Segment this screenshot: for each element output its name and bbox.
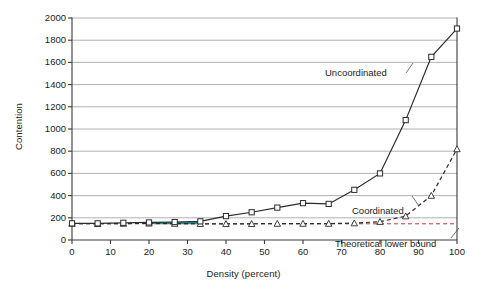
y-tick-label: 800 [26, 145, 66, 156]
x-tick-label: 20 [129, 246, 169, 257]
data-point-marker [326, 201, 331, 206]
data-point-marker [146, 220, 151, 225]
x-axis-label: Density (percent) [0, 268, 487, 279]
x-tick-label: 30 [168, 246, 208, 257]
chart-figure: Contention Density (percent) 02004006008… [0, 0, 487, 294]
annotation-uncoordinated: Uncoordinated [325, 67, 387, 78]
y-tick-label: 400 [26, 190, 66, 201]
data-point-marker [69, 221, 74, 226]
x-tick-label: 10 [91, 246, 131, 257]
x-tick-label: 50 [245, 246, 285, 257]
y-tick-label: 2000 [26, 12, 66, 23]
y-tick-label: 1400 [26, 79, 66, 90]
x-tick-label: 100 [437, 246, 477, 257]
data-point-marker [249, 210, 254, 215]
data-point-marker [454, 146, 460, 152]
x-tick-label: 0 [52, 246, 92, 257]
annotation-leader-lines [406, 63, 459, 238]
data-point-marker [377, 171, 382, 176]
annotation-theoretical-lower-bound: Theoretical lower bound [335, 238, 436, 249]
y-tick-label: 1000 [26, 123, 66, 134]
data-point-marker [95, 221, 100, 226]
data-point-marker [300, 201, 305, 206]
data-point-marker [198, 219, 203, 224]
data-point-marker [275, 205, 280, 210]
y-tick-label: 0 [26, 234, 66, 245]
y-tick-marks [68, 18, 72, 240]
y-tick-label: 600 [26, 167, 66, 178]
y-tick-label: 1200 [26, 101, 66, 112]
data-point-marker [352, 187, 357, 192]
y-tick-label: 1800 [26, 34, 66, 45]
data-point-marker [223, 214, 228, 219]
data-point-marker [429, 54, 434, 59]
data-point-marker [454, 26, 459, 31]
x-tick-label: 60 [283, 246, 323, 257]
y-tick-label: 1600 [26, 56, 66, 67]
annotation-coordinated: Coordinated [352, 205, 404, 216]
series-layer [69, 26, 460, 227]
y-axis-label: Contention [13, 87, 24, 167]
x-tick-label: 40 [206, 246, 246, 257]
gridlines [72, 18, 457, 218]
y-tick-label: 200 [26, 212, 66, 223]
series-line-uncoordinated [72, 29, 457, 224]
data-point-marker [172, 219, 177, 224]
data-point-marker [121, 220, 126, 225]
data-point-marker [403, 118, 408, 123]
